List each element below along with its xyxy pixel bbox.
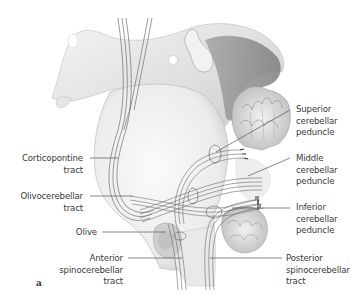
label-superior-cerebellar-peduncle: Superior cerebellar peduncle <box>296 104 337 139</box>
label-posterior-spinocerebellar-tract: Posterior spinocerebellar tract <box>286 253 350 288</box>
panel-letter: a <box>36 278 42 288</box>
label-corticopontine-tract: Corticopontine tract <box>22 153 83 176</box>
label-olive: Olive <box>76 227 97 239</box>
label-inferior-cerebellar-peduncle: Inferior cerebellar peduncle <box>296 202 337 237</box>
label-middle-cerebellar-peduncle: Middle cerebellar peduncle <box>296 153 337 188</box>
label-anterior-spinocerebellar-tract: Anterior spinocerebellar tract <box>59 253 123 288</box>
cerebellum <box>222 87 291 253</box>
label-olivocerebellar-tract: Olivocerebellar tract <box>20 191 83 214</box>
